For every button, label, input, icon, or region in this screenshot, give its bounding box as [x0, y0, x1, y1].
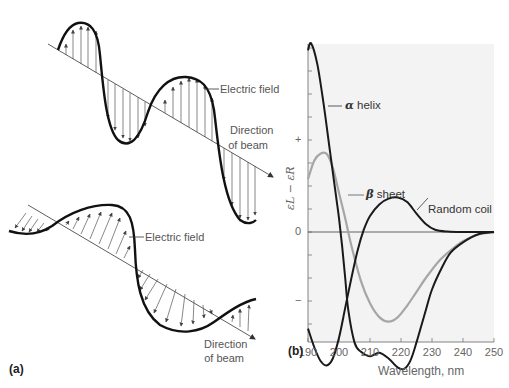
panel-a-tag: (a) [9, 362, 24, 376]
top-wave-group [48, 23, 273, 223]
y-axis-label: εL − εR [284, 166, 297, 210]
beta-sheet-label: β sheet [366, 187, 405, 201]
panel-b-cd-spectra-chart: α helix β sheet Random coil εL − εR +0− … [280, 0, 509, 388]
panel-b-tag: (b) [288, 344, 303, 358]
x-tick-label: 220 [392, 346, 410, 358]
electric-field-label-bottom: Electric field [145, 231, 204, 244]
y-tick-label: + [295, 133, 301, 145]
polarized-wave-drawing [0, 0, 290, 388]
x-tick-label: 250 [485, 346, 503, 358]
bottom-wave-group [9, 205, 256, 339]
x-tick-label: 240 [454, 346, 472, 358]
beam-direction-arrow [48, 44, 273, 177]
panel-a-polarized-light-diagram: Electric field Direction of beam Electri… [0, 0, 290, 388]
electric-field-label-top: Electric field [220, 83, 279, 96]
x-tick-label: 210 [361, 346, 379, 358]
field-vectors-bottom [15, 212, 249, 331]
direction-label-top-line2: of beam [222, 139, 268, 152]
x-tick-label: 200 [330, 346, 348, 358]
direction-label-bottom-line1: Direction [204, 338, 244, 351]
direction-label-bottom-line2: of beam [198, 352, 244, 365]
bottom-wave-curve [9, 205, 256, 332]
random-coil-label: Random coil [428, 203, 492, 215]
y-tick-label: 0 [295, 225, 301, 237]
x-tick-label: 230 [423, 346, 441, 358]
y-tick-label: − [295, 294, 301, 306]
direction-label-top-line1: Direction [230, 124, 268, 137]
x-axis-label: Wavelength, nm [378, 364, 464, 378]
alpha-helix-label: α helix [345, 98, 381, 112]
